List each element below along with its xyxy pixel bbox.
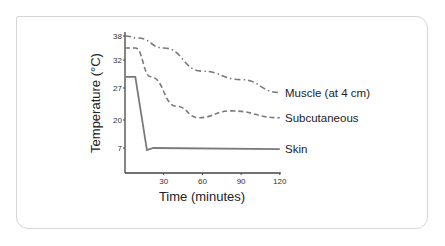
x-tick-label: 90 xyxy=(237,177,246,186)
x-tick-label: 60 xyxy=(198,177,207,186)
x-axis-label: Time (minutes) xyxy=(159,189,245,204)
series-labels: Muscle (at 4 cm)SubcutaneousSkin xyxy=(285,87,370,156)
y-axis-label: Temperature (°C) xyxy=(88,53,103,153)
y-tick-label: 32 xyxy=(113,56,122,65)
series-lines xyxy=(125,36,280,150)
series-line-skin xyxy=(125,77,280,150)
y-tick-label: 27 xyxy=(113,84,122,93)
x-tick-label: 30 xyxy=(159,177,168,186)
line-chart: 383227207306090120 Muscle (at 4 cm)Subcu… xyxy=(0,0,445,246)
series-label: Muscle (at 4 cm) xyxy=(285,87,370,99)
y-tick-label: 7 xyxy=(118,144,123,153)
series-label: Subcutaneous xyxy=(285,112,359,124)
series-label: Skin xyxy=(285,143,307,155)
series-line-subcutaneous xyxy=(125,48,280,118)
series-line-muscle xyxy=(125,36,280,93)
x-tick-label: 120 xyxy=(273,177,287,186)
axes: 383227207306090120 xyxy=(113,32,287,186)
y-tick-label: 38 xyxy=(113,32,122,41)
y-tick-label: 20 xyxy=(113,116,122,125)
